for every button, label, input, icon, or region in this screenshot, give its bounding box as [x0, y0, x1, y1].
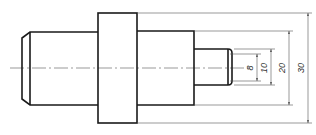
small-shaft — [194, 49, 232, 85]
shaft-drawing: 8 10 20 30 — [0, 0, 316, 135]
dim-label-10: 10 — [259, 63, 269, 73]
dim-label-20: 20 — [277, 63, 287, 74]
dim-label-30: 30 — [296, 63, 306, 73]
dim-label-8: 8 — [245, 65, 255, 70]
left-shaft — [22, 32, 98, 105]
